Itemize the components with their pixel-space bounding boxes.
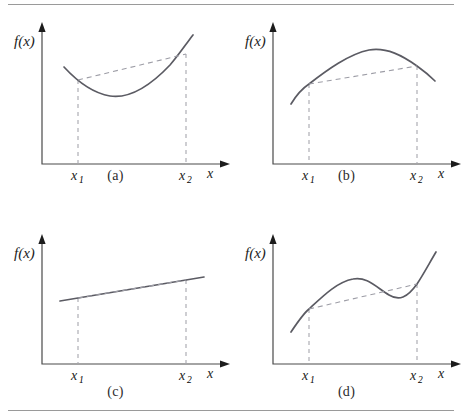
axes [38,22,230,168]
x-axis-arrow-icon [220,360,230,367]
panel-b-caption: (b) [231,168,462,184]
y-axis-label: f(x) [14,33,35,50]
function-curve [64,35,193,96]
panel-b: f(x) x x 1 x 2 (b) [231,8,462,208]
y-axis-label: f(x) [245,245,266,262]
panel-c-plot: f(x) x x 1 x 2 [0,212,231,387]
y-axis-arrow-icon [38,234,45,244]
panel-a-plot: f(x) x x 1 x 2 [0,8,231,183]
function-curve [291,252,436,332]
panel-c-caption: (c) [0,384,231,400]
x-axis-arrow-icon [451,360,461,367]
function-curve [291,49,435,104]
panel-a-caption: (a) [0,168,231,184]
panel-c: f(x) x x 1 x 2 (c) [0,212,231,412]
panel-b-plot: f(x) x x 1 x 2 [231,8,462,183]
drop-lines [78,280,186,364]
y-axis-label: f(x) [245,33,266,50]
drop-lines [309,66,417,164]
x-axis-label: x [437,366,445,381]
top-divider-rule [8,4,454,5]
chord-line [78,54,186,80]
y-axis-arrow-icon [269,22,276,32]
axes [269,234,461,368]
axes [38,234,230,368]
panel-d-plot: f(x) x x 1 x 2 [231,212,462,387]
chord-line [309,284,417,309]
panel-d: f(x) x x 1 x 2 (d) [231,212,462,412]
x2-tick-label: x [178,368,186,383]
drop-lines [78,54,186,164]
x2-tick-label: x [409,368,417,383]
x1-tick-label: x [301,368,309,383]
x-axis-label: x [206,366,214,381]
panel-d-caption: (d) [231,384,462,400]
panel-a: f(x) x x 1 x 2 (a) [0,8,231,208]
y-axis-arrow-icon [269,234,276,244]
chord-line [309,66,417,84]
figure-sheet: f(x) x x 1 x 2 (a) f(x) x x 1 [0,0,462,419]
x-axis-arrow-icon [451,160,461,167]
x1-tick-label: x [70,368,78,383]
y-axis-arrow-icon [38,22,45,32]
x-axis-arrow-icon [220,160,230,167]
y-axis-label: f(x) [14,245,35,262]
bottom-divider-rule [8,410,454,411]
